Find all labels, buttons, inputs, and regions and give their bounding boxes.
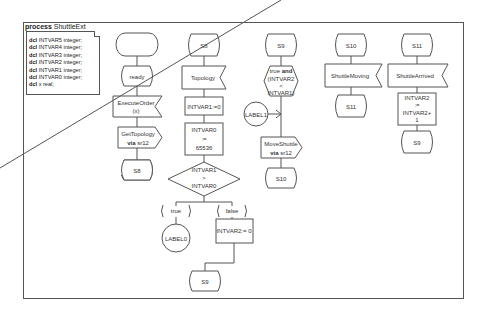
join-label: LABEL0 [165,236,188,242]
input-label: ShuttleArrived [396,73,434,79]
connector-label: LABEL1 [245,112,268,118]
output-label: GetTopology [121,131,155,137]
start-symbol[interactable] [116,33,158,56]
task-label: INTVAR0 [192,127,218,133]
cont-label: INTVAR1) [268,90,295,96]
nextstate-label: S11 [346,104,357,110]
state-ready-label: ready [129,74,144,80]
answer-false[interactable]: false [226,208,239,214]
state-label: S11 [412,43,423,49]
output-via: via sr12 [127,140,149,146]
decision-label: INTVAR0 [192,183,218,189]
nextstate-label: S8 [133,168,141,174]
cont-label: < [279,83,283,89]
task-label: INTVAR2+ [403,110,432,116]
input-label: ExecuteOrder [117,100,154,106]
task-label: 65536 [196,145,213,151]
task-label: INTVAR2:= 0 [216,228,252,234]
output-via: via sr12 [270,150,292,156]
nextstate-label: S9 [413,140,421,146]
input-label: ShuttleMoving [331,73,369,79]
nextstate-label: S9 [201,279,209,285]
task-label: INTVAR2 [405,95,431,101]
nextstate-label: S10 [276,176,287,182]
task-label: := [201,136,207,142]
task-label: := [414,102,420,108]
task-label: INTVAR1:=0 [187,104,221,110]
output-label: MoveShuttle [264,141,298,147]
cont-label: (INTVAR2 [268,76,296,82]
input-param: (x) [133,108,140,114]
diagram-canvas: ready ExecuteOrder (x) GetTopology via s… [0,0,489,318]
decision-label: > [202,175,206,181]
cont-label: true and [270,68,293,74]
state-label: S10 [346,43,357,49]
input-label: Topology [191,75,215,81]
state-label: S9 [277,43,285,49]
answer-true[interactable]: true [171,208,182,214]
decision-label: INTVAR1 [192,167,218,173]
